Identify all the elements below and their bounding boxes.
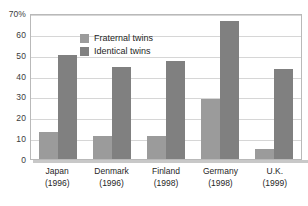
y-axis-tick-40: 40	[16, 72, 26, 82]
bar-fraternal-uk[interactable]	[255, 149, 274, 159]
x-axis-label-uk: U.K.(1999)	[248, 166, 302, 198]
x-axis-year: (1996)	[30, 178, 84, 190]
legend-entry-identical-twins[interactable]: Identical twins	[80, 46, 153, 57]
y-axis-tick-labels: 010203040506070%	[0, 14, 29, 160]
y-axis-tick-20: 20	[16, 113, 26, 123]
x-axis-category-labels: Japan(1996)Denmark(1996)Finland(1998)Ger…	[30, 166, 302, 198]
bar-identical-denmark[interactable]	[112, 67, 131, 159]
legend-label-identical: Identical twins	[94, 46, 151, 57]
y-axis-tick-60: 60	[16, 30, 26, 40]
x-axis-year: (1999)	[248, 178, 302, 190]
x-axis-year: (1996)	[84, 178, 138, 190]
legend-label-fraternal: Fraternal twins	[94, 33, 153, 44]
legend-entry-fraternal-twins[interactable]: Fraternal twins	[80, 33, 153, 44]
x-axis-country-name: Germany	[193, 166, 247, 178]
twin-concordance-bar-chart: 010203040506070% Fraternal twins Identic…	[0, 0, 308, 206]
baseline-shadow	[33, 160, 308, 163]
chart-legend: Fraternal twins Identical twins	[80, 33, 153, 57]
bar-identical-finland[interactable]	[166, 61, 185, 159]
bar-group-japan	[31, 15, 85, 159]
y-axis-tick-70: 70%	[9, 9, 26, 19]
x-axis-country-name: Finland	[139, 166, 193, 178]
legend-swatch-icon-fraternal	[80, 34, 89, 43]
y-axis-tick-30: 30	[16, 92, 26, 102]
y-axis-tick-0: 0	[21, 155, 26, 165]
bars-layer	[31, 15, 301, 159]
x-axis-year: (1998)	[193, 178, 247, 190]
y-axis-tick-50: 50	[16, 51, 26, 61]
x-axis-country-name: Denmark	[84, 166, 138, 178]
x-axis-label-germany: Germany(1998)	[193, 166, 247, 198]
x-axis-country-name: Japan	[30, 166, 84, 178]
bar-group-uk	[247, 15, 301, 159]
x-axis-label-finland: Finland(1998)	[139, 166, 193, 198]
bar-fraternal-japan[interactable]	[39, 132, 58, 159]
legend-swatch-icon-identical	[80, 47, 89, 56]
bar-group-germany	[193, 15, 247, 159]
plot-area: Fraternal twins Identical twins	[30, 14, 302, 160]
y-axis-tick-10: 10	[16, 134, 26, 144]
bar-identical-germany[interactable]	[220, 21, 239, 159]
x-axis-country-name: U.K.	[248, 166, 302, 178]
bar-fraternal-finland[interactable]	[147, 136, 166, 159]
bar-fraternal-germany[interactable]	[201, 99, 220, 159]
x-axis-year: (1998)	[139, 178, 193, 190]
x-axis-label-japan: Japan(1996)	[30, 166, 84, 198]
bar-identical-japan[interactable]	[58, 55, 77, 159]
x-axis-label-denmark: Denmark(1996)	[84, 166, 138, 198]
bar-identical-uk[interactable]	[274, 69, 293, 159]
bar-fraternal-denmark[interactable]	[93, 136, 112, 159]
